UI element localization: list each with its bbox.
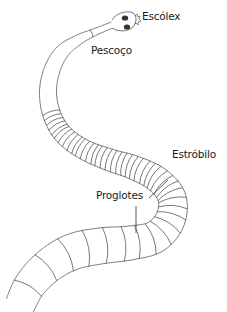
label-escolex: Escólex	[142, 10, 180, 22]
label-pescoco: Pescoço	[91, 44, 132, 56]
scolex-head	[112, 12, 141, 31]
tapeworm-body	[7, 22, 188, 311]
sucker-icon	[124, 24, 130, 29]
sucker-icon	[122, 15, 128, 20]
tapeworm-diagram: Escólex Pescoço Estróbilo Proglotes	[0, 0, 227, 312]
label-estrobilo: Estróbilo	[172, 148, 216, 160]
label-proglotes: Proglotes	[96, 189, 143, 201]
